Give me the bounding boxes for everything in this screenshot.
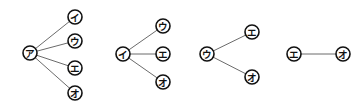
node-e3: エ [245, 25, 259, 39]
node-label: エ [247, 27, 257, 38]
node-label: オ [247, 72, 257, 83]
edge-a1-i1 [30, 17, 75, 53]
node-label: ウ [70, 36, 80, 47]
nodes-layer: アイウエオイウエオウエオエオ [23, 10, 350, 100]
node-u1: ウ [68, 34, 82, 48]
node-label: エ [289, 49, 299, 60]
node-e2: エ [156, 47, 170, 61]
node-e1: エ [68, 61, 82, 75]
node-label: ウ [202, 49, 212, 60]
node-label: オ [158, 77, 168, 88]
node-label: エ [158, 49, 168, 60]
node-o2: オ [156, 75, 170, 89]
edge-a1-o1 [30, 53, 75, 93]
node-e4: エ [287, 47, 301, 61]
node-label: ウ [158, 21, 168, 32]
node-i2: イ [116, 47, 130, 61]
node-label: イ [118, 49, 128, 60]
node-i1: イ [68, 10, 82, 24]
tree-diagram: アイウエオイウエオウエオエオ [0, 0, 363, 106]
node-o4: オ [336, 47, 350, 61]
node-label: イ [70, 12, 80, 23]
node-a1: ア [23, 46, 37, 60]
node-label: オ [70, 88, 80, 99]
node-o3: オ [245, 70, 259, 84]
node-label: オ [338, 49, 348, 60]
node-u3: ウ [200, 47, 214, 61]
node-u2: ウ [156, 19, 170, 33]
node-o1: オ [68, 86, 82, 100]
node-label: エ [70, 63, 80, 74]
node-label: ア [25, 48, 35, 59]
